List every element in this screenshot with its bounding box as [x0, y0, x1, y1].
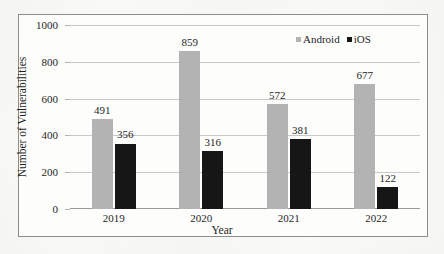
legend-entry-ios: iOS	[347, 33, 371, 45]
legend-swatch-icon-android	[296, 37, 301, 42]
chart-figure: Number of Vulnerabilities Year 020040060…	[0, 0, 444, 254]
y-tick-label: 1000	[0, 20, 58, 31]
x-tick-label-2022: 2022	[346, 212, 406, 224]
y-tick-label: 800	[0, 57, 58, 68]
bar-label-ios-2022: 122	[370, 173, 405, 184]
legend-swatch-icon-ios	[347, 37, 352, 42]
y-tick-mark	[65, 209, 70, 210]
gridline	[70, 62, 420, 63]
y-tick-label: 400	[0, 130, 58, 141]
legend-entry-android: Android	[296, 33, 340, 45]
bar-label-ios-2019: 356	[108, 129, 143, 140]
y-axis-title: Number of Vulnerabilities	[16, 57, 28, 177]
bar-label-ios-2020: 316	[195, 137, 230, 148]
bar-label-android-2022: 677	[347, 70, 382, 81]
chart-legend: AndroidiOS	[296, 33, 371, 45]
legend-label-ios: iOS	[354, 33, 371, 45]
x-tick-label-2021: 2021	[259, 212, 319, 224]
bar-android-2020	[179, 51, 200, 209]
bar-ios-2022	[377, 187, 398, 209]
y-tick-label: 0	[0, 204, 58, 215]
bar-label-android-2019: 491	[85, 105, 120, 116]
bar-label-ios-2021: 381	[283, 125, 318, 136]
bar-android-2021	[267, 104, 288, 209]
y-tick-label: 600	[0, 94, 58, 105]
bar-label-android-2020: 859	[172, 37, 207, 48]
bar-ios-2021	[290, 139, 311, 209]
bar-ios-2019	[115, 144, 136, 210]
legend-label-android: Android	[303, 33, 340, 45]
x-tick-label-2019: 2019	[84, 212, 144, 224]
gridline	[70, 25, 420, 26]
plot-area	[70, 25, 420, 209]
x-tick-label-2020: 2020	[171, 212, 231, 224]
bar-ios-2020	[202, 151, 223, 209]
y-tick-label: 200	[0, 167, 58, 178]
bar-android-2022	[354, 84, 375, 209]
x-axis-title: Year	[0, 224, 444, 236]
bar-label-android-2021: 572	[260, 90, 295, 101]
